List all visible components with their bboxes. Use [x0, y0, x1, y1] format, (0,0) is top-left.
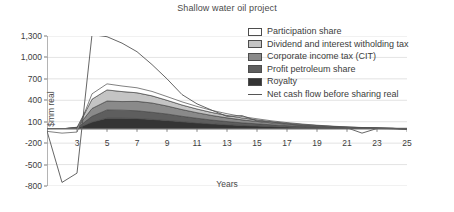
legend-label: Royalty: [267, 77, 297, 86]
legend-swatch-icon: [248, 78, 262, 86]
legend-line-icon: [248, 90, 262, 98]
legend-label: Participation share: [267, 27, 342, 36]
legend-swatch-icon: [248, 53, 262, 61]
x-tick-label: 21: [342, 138, 351, 148]
x-tick-label: 23: [372, 138, 381, 148]
y-tick-label: 100: [28, 117, 42, 127]
x-tick-label: 5: [105, 138, 110, 148]
x-axis-label: Years: [47, 179, 407, 189]
x-tick-label: 11: [193, 138, 202, 148]
y-tick-label: -800: [25, 181, 42, 191]
legend-item[interactable]: Profit petroleum share: [248, 64, 409, 75]
y-tick-mark: [44, 121, 47, 122]
legend-item[interactable]: Corporate income tax (CIT): [248, 51, 409, 62]
x-tick-label: 17: [282, 138, 291, 148]
x-tick-label: 15: [252, 138, 261, 148]
x-tick-label: 3: [75, 138, 80, 148]
legend-label: Corporate income tax (CIT): [267, 52, 376, 61]
y-tick-label: 700: [28, 74, 42, 84]
chart-figure: Shallow water oil project $mm real Years…: [0, 0, 454, 212]
chart-legend: Participation shareDividend and interest…: [248, 26, 409, 100]
y-axis-label: $mm real: [46, 69, 56, 149]
x-tick-label: 9: [165, 138, 170, 148]
y-tick-mark: [44, 186, 47, 187]
legend-label: Profit petroleum share: [267, 65, 356, 74]
y-tick-mark: [44, 100, 47, 101]
legend-item[interactable]: Participation share: [248, 26, 409, 37]
y-tick-label: -200: [25, 138, 42, 148]
y-tick-mark: [44, 36, 47, 37]
y-tick-mark: [44, 57, 47, 58]
x-tick-label: 7: [135, 138, 140, 148]
y-tick-mark: [44, 78, 47, 79]
y-tick-label: -500: [25, 160, 42, 170]
y-tick-label: 1,000: [21, 52, 42, 62]
legend-item[interactable]: Royalty: [248, 76, 409, 87]
legend-swatch-icon: [248, 28, 262, 36]
y-tick-label: 400: [28, 95, 42, 105]
legend-swatch-icon: [248, 65, 262, 73]
legend-label: Dividend and interest witholding tax: [267, 40, 409, 49]
y-tick-mark: [44, 143, 47, 144]
x-tick-label: 25: [402, 138, 411, 148]
legend-swatch-icon: [248, 40, 262, 48]
legend-item[interactable]: Dividend and interest witholding tax: [248, 39, 409, 50]
x-tick-label: 19: [312, 138, 321, 148]
y-tick-mark: [44, 164, 47, 165]
y-tick-label: 1,300: [21, 31, 42, 41]
chart-title: Shallow water oil project: [0, 3, 454, 13]
legend-item[interactable]: Net cash flow before sharing real: [248, 89, 409, 100]
x-tick-label: 13: [222, 138, 231, 148]
legend-label: Net cash flow before sharing real: [267, 90, 399, 99]
